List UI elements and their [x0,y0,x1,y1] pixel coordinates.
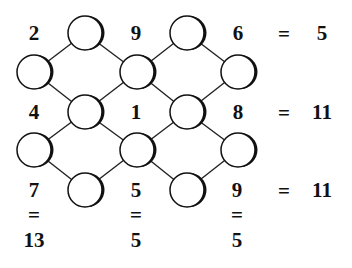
row3-right-clue: 9 [232,180,243,201]
row1-right-clue: 6 [233,23,244,44]
row1-equals: = [278,24,290,45]
circle-slot-c12[interactable] [170,173,207,207]
circle-slot-c9[interactable] [120,133,157,167]
circle-slot-c7[interactable] [170,95,207,129]
circle-slot-c10[interactable] [221,133,258,167]
col1-equals: = [28,205,40,226]
circle-slot-c11[interactable] [68,173,105,207]
col3-sum: 5 [232,230,243,251]
col3-equals: = [231,205,243,226]
circle-slot-c3[interactable] [17,55,54,89]
row1-mid-clue: 9 [131,23,142,44]
row2-sum: 11 [312,102,332,123]
row2-equals: = [278,103,290,124]
puzzle-grid [0,0,352,268]
col1-sum: 13 [24,230,45,251]
col2-sum: 5 [131,230,142,251]
circle-slot-c6[interactable] [68,95,105,129]
circle-slot-c2[interactable] [170,16,207,50]
row1-left-clue: 2 [29,23,40,44]
row3-left-clue: 7 [29,180,40,201]
circle-slot-c1[interactable] [68,16,105,50]
row2-mid-clue: 1 [131,102,142,123]
col2-equals: = [130,205,142,226]
row2-right-clue: 8 [233,102,244,123]
row3-sum: 11 [312,180,332,201]
row3-mid-clue: 5 [131,180,142,201]
row3-equals: = [278,181,290,202]
circle-slot-c5[interactable] [221,55,258,89]
row1-sum: 5 [317,23,328,44]
circle-slot-c8[interactable] [17,133,54,167]
row2-left-clue: 4 [29,102,40,123]
circle-slot-c4[interactable] [120,55,157,89]
